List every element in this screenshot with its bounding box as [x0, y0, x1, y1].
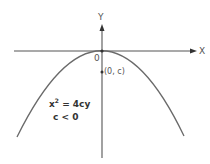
- x-axis-arrow-icon: [190, 49, 197, 54]
- parabola-diagram: Y X 0 (0, c) x2 = 4cy c < 0: [0, 0, 210, 164]
- focus-label: (0, c): [104, 68, 125, 76]
- equation-rhs: = 4cy: [59, 99, 90, 109]
- origin-label: 0: [94, 54, 100, 63]
- parabola-curve: [17, 51, 184, 137]
- x-axis-label: X: [199, 47, 205, 56]
- diagram-canvas: [0, 0, 210, 164]
- y-axis-arrow-icon: [100, 24, 105, 31]
- y-axis-label: Y: [98, 13, 104, 22]
- equation-text: x2 = 4cy: [49, 98, 90, 109]
- condition-text: c < 0: [53, 113, 78, 122]
- vertex-point: [100, 49, 103, 52]
